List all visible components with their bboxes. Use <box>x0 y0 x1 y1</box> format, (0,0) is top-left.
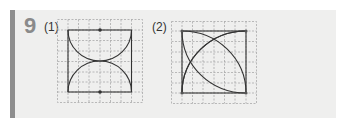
corner-dot <box>244 91 247 94</box>
center-dot-top <box>98 28 102 32</box>
corner-dot <box>244 29 247 32</box>
figure-1 <box>58 20 143 103</box>
grid-2 <box>172 22 257 104</box>
figures <box>0 0 342 130</box>
corner-dot <box>180 29 183 32</box>
figure-2 <box>172 22 257 104</box>
corner-dot <box>180 91 183 94</box>
center-dot-bottom <box>98 90 102 94</box>
